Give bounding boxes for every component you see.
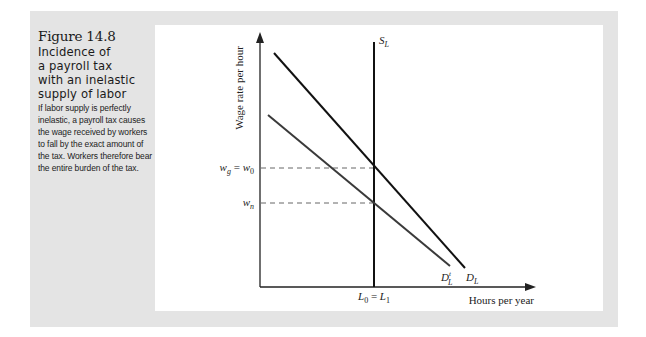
x-axis-label: Hours per year: [469, 294, 535, 306]
sl-label: SL: [379, 34, 390, 49]
y-axis-arrow-icon: [256, 32, 264, 43]
y-axis-label: Wage rate per hour: [233, 46, 245, 130]
demand-line-dl-tax: [268, 115, 450, 266]
dl-label: DL: [465, 271, 479, 286]
l0-equals-l1-label: L0 = L1: [357, 290, 390, 305]
x-axis-arrow-icon: [525, 283, 536, 291]
wn-label: wn: [243, 196, 254, 211]
incidence-chart: Wage rate per hour Hours per year wg = w…: [0, 0, 646, 337]
dl-tax-label: DtL: [440, 270, 453, 287]
wg-equals-w0-label: wg = w0: [220, 161, 254, 176]
demand-line-dl: [274, 53, 465, 268]
